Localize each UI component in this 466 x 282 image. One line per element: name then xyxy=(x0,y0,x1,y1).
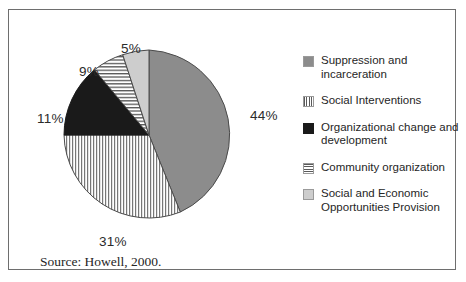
pie-label-5: 5% xyxy=(121,41,141,56)
pie-label-9: 9% xyxy=(79,64,99,79)
solid-gray-swatch-icon xyxy=(303,56,314,67)
pie-label-11: 11% xyxy=(37,111,64,126)
pie-chart: 44% 31% 11% 9% 5% xyxy=(21,22,286,247)
solid-light-gray-swatch-icon xyxy=(303,189,314,200)
legend-item-social-interventions: Social Interventions xyxy=(303,94,466,108)
pie-label-44: 44% xyxy=(250,108,278,123)
pie-label-31: 31% xyxy=(99,234,127,249)
horizontal-lines-swatch-icon xyxy=(303,163,314,174)
legend-label: Suppression and incarceration xyxy=(321,54,466,81)
figure-page: 44% 31% 11% 9% 5% Suppression and incarc… xyxy=(0,0,466,282)
chart-legend: Suppression and incarceration Social Int… xyxy=(303,54,466,227)
vertical-lines-swatch-icon xyxy=(303,96,314,107)
legend-item-organizational-change-and-development: Organizational change and development xyxy=(303,121,466,148)
solid-black-swatch-icon xyxy=(303,123,314,134)
pie-chart-svg xyxy=(21,22,286,247)
figure-frame: 44% 31% 11% 9% 5% Suppression and incarc… xyxy=(8,9,456,270)
legend-label: Community organization xyxy=(321,161,445,175)
legend-item-suppression-and-incarceration: Suppression and incarceration xyxy=(303,54,466,81)
legend-item-community-organization: Community organization xyxy=(303,161,466,175)
source-note: Source: Howell, 2000. xyxy=(40,254,161,270)
legend-label: Organizational change and development xyxy=(321,121,466,148)
legend-item-social-and-economic-opportunities-provision: Social and Economic Opportunities Provis… xyxy=(303,187,466,214)
legend-label: Social and Economic Opportunities Provis… xyxy=(321,187,466,214)
legend-label: Social Interventions xyxy=(321,94,421,108)
